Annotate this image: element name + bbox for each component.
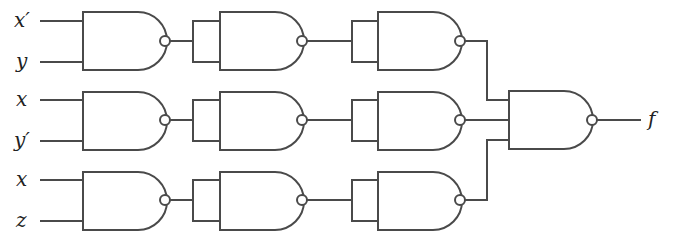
- nand-gate-3-3: [378, 172, 462, 230]
- nand-gate-1-1: [83, 12, 167, 70]
- nand-gate-1-3: [83, 172, 167, 230]
- nand-gate-2-3: [220, 172, 304, 230]
- inverter-bubble: [297, 115, 307, 125]
- nand-gate-2-2: [220, 92, 304, 150]
- logic-circuit-diagram: [0, 0, 675, 248]
- row-1: [41, 12, 509, 100]
- inverter-bubble: [297, 36, 307, 46]
- inverter-bubble: [455, 115, 465, 125]
- inverter-bubble: [160, 36, 170, 46]
- tied-inputs: [352, 100, 378, 141]
- nand-gate-3-1: [378, 12, 462, 70]
- nand-gate-output: [509, 91, 593, 149]
- tied-inputs: [193, 180, 220, 221]
- tied-inputs: [193, 100, 220, 141]
- output-label: f: [648, 109, 655, 129]
- tied-inputs: [352, 180, 378, 221]
- row-2: [41, 92, 509, 150]
- nand-gate-2-1: [220, 12, 304, 70]
- input-label: x: [16, 89, 27, 109]
- input-label: x: [16, 169, 27, 189]
- inverter-bubble: [160, 115, 170, 125]
- input-label: x′: [14, 10, 30, 30]
- row-3: [41, 140, 509, 230]
- wire: [465, 140, 509, 200]
- wire: [465, 41, 509, 100]
- inverter-bubble: [455, 195, 465, 205]
- inverter-bubble: [160, 195, 170, 205]
- input-label: y: [16, 51, 27, 71]
- inverter-bubble: [297, 195, 307, 205]
- inverter-bubble: [455, 36, 465, 46]
- tied-inputs: [352, 21, 378, 62]
- input-label: z: [16, 210, 27, 230]
- input-label: y′: [14, 130, 30, 150]
- inverter-bubble: [587, 115, 597, 125]
- output-stage: [509, 91, 640, 149]
- nand-gate-1-2: [83, 92, 167, 150]
- tied-inputs: [193, 21, 220, 62]
- nand-gate-3-2: [378, 92, 462, 150]
